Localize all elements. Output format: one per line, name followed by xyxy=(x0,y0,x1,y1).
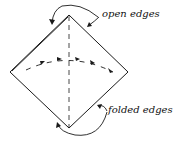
open-edges-label: open edges xyxy=(102,8,160,19)
arrowhead-icon xyxy=(49,19,55,25)
folded-edges-label: folded edges xyxy=(108,104,173,115)
arrowhead-icon xyxy=(56,122,61,128)
fold-motion-arc xyxy=(26,60,113,72)
open-edge-layer xyxy=(12,17,68,71)
arrowhead-icon xyxy=(75,57,80,61)
arrowhead-icon xyxy=(97,104,102,109)
fold-diagram xyxy=(0,0,183,146)
arrowhead-icon xyxy=(87,22,92,27)
arrowhead-icon xyxy=(108,68,113,73)
